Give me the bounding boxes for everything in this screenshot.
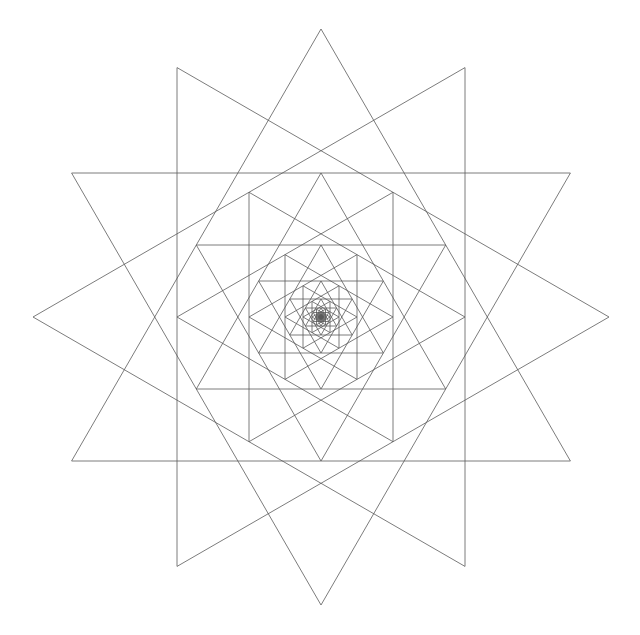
nested-star-diagram	[0, 0, 640, 635]
triangle-layer	[33, 29, 609, 605]
